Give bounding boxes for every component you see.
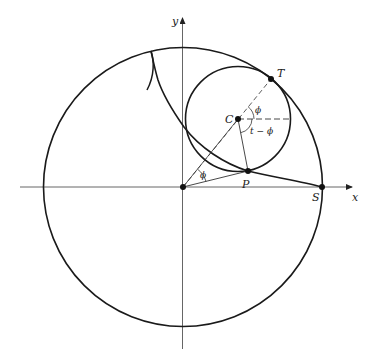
point-C: [235, 116, 241, 122]
point-S: [319, 184, 325, 190]
label-T: T: [277, 67, 286, 80]
label-P: P: [241, 178, 250, 191]
angle-arc-phi-at-C: [248, 107, 254, 119]
segment-CP: [238, 119, 248, 171]
hypocycloid-diagram: y x T C P S ϕ t − ϕ ϕ: [0, 0, 374, 363]
label-phi-at-origin: ϕ: [200, 170, 206, 180]
x-axis-label: x: [352, 191, 359, 204]
point-T: [268, 76, 274, 82]
label-S: S: [312, 191, 320, 204]
segment-OP: [183, 171, 248, 187]
label-t-minus-phi: t − ϕ: [250, 126, 273, 136]
point-origin: [180, 184, 186, 190]
solid-line-OC: [183, 119, 238, 187]
label-C: C: [225, 113, 234, 126]
hypocycloid-cusp-branch: [147, 51, 153, 90]
label-phi-at-C: ϕ: [255, 105, 261, 115]
point-P: [245, 168, 251, 174]
y-axis-label: y: [171, 15, 179, 28]
